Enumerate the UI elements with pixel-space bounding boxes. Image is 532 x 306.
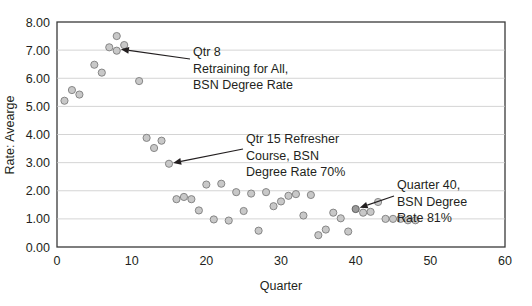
- data-point: [61, 97, 68, 104]
- y-tick-label: 7.00: [26, 44, 50, 58]
- y-axis-tick-labels: 0.001.002.003.004.005.006.007.008.00: [26, 16, 50, 255]
- data-point: [300, 212, 307, 219]
- scatter-chart: 0.001.002.003.004.005.006.007.008.00 010…: [0, 0, 532, 306]
- y-tick-label: 2.00: [26, 184, 50, 198]
- data-point: [158, 137, 165, 144]
- data-point: [203, 181, 210, 188]
- x-tick-label: 60: [498, 254, 512, 268]
- data-point: [136, 77, 143, 84]
- data-point: [240, 207, 247, 214]
- data-point: [382, 215, 389, 222]
- data-point: [248, 190, 255, 197]
- data-point: [150, 144, 157, 151]
- x-axis-tick-labels: 0102030405060: [54, 254, 512, 268]
- data-point: [360, 209, 367, 216]
- data-point: [143, 134, 150, 141]
- data-point: [367, 208, 374, 215]
- y-axis-title: Rate: Aveargе: [3, 95, 17, 174]
- data-point: [68, 86, 75, 93]
- data-point: [285, 192, 292, 199]
- data-point: [195, 207, 202, 214]
- data-point: [106, 44, 113, 51]
- data-point: [180, 193, 187, 200]
- x-tick-label: 40: [349, 254, 363, 268]
- data-point: [345, 228, 352, 235]
- data-point: [218, 180, 225, 187]
- y-tick-label: 1.00: [26, 212, 50, 226]
- data-point: [91, 61, 98, 68]
- data-point: [307, 191, 314, 198]
- data-point: [270, 203, 277, 210]
- data-point: [337, 215, 344, 222]
- data-point: [98, 69, 105, 76]
- data-point: [352, 205, 359, 212]
- data-point: [113, 32, 120, 39]
- data-point: [233, 189, 240, 196]
- data-point: [262, 189, 269, 196]
- x-tick-label: 20: [199, 254, 213, 268]
- data-point: [173, 196, 180, 203]
- data-point: [210, 216, 217, 223]
- data-point: [389, 215, 396, 222]
- y-tick-label: 5.00: [26, 100, 50, 114]
- chart-container: 0.001.002.003.004.005.006.007.008.00 010…: [0, 0, 532, 306]
- data-point: [188, 196, 195, 203]
- x-axis-title: Quarter: [260, 279, 302, 293]
- x-tick-label: 30: [274, 254, 288, 268]
- data-point: [76, 91, 83, 98]
- data-point: [315, 232, 322, 239]
- x-tick-label: 50: [423, 254, 437, 268]
- x-tick-label: 10: [125, 254, 139, 268]
- data-point: [277, 198, 284, 205]
- data-point: [225, 217, 232, 224]
- y-tick-label: 4.00: [26, 128, 50, 142]
- y-tick-label: 6.00: [26, 72, 50, 86]
- data-point: [330, 209, 337, 216]
- y-tick-label: 3.00: [26, 156, 50, 170]
- data-point: [121, 41, 128, 48]
- data-point: [113, 47, 120, 54]
- x-tick-label: 0: [54, 254, 61, 268]
- y-tick-label: 0.00: [26, 241, 50, 255]
- data-point: [292, 191, 299, 198]
- data-point: [322, 226, 329, 233]
- y-tick-label: 8.00: [26, 16, 50, 30]
- data-point: [255, 227, 262, 234]
- data-point: [165, 160, 172, 167]
